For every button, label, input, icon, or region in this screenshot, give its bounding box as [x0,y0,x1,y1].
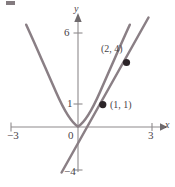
point-label-2-4: (2, 4) [101,44,123,54]
secant-line-curve [62,18,149,173]
y-tick-label-1: 1 [67,98,73,109]
data-point-2-4 [123,59,130,66]
y-tick-label-neg4: −4 [64,166,76,177]
y-axis-label: y [74,4,78,14]
x-tick-label-3: 3 [148,130,154,141]
x-tick-label-neg3: −3 [7,130,19,141]
x-tick-label-0: 0 [68,130,74,141]
x-axis-label: x [165,120,169,130]
y-axis-arrowhead [74,13,81,22]
plot-canvas [0,0,175,187]
data-point-1-1 [99,101,106,108]
point-label-1-1: (1, 1) [110,100,132,110]
y-tick-label-6: 6 [64,27,70,38]
graph-figure: −3 0 3 1 6 −4 x y (2, 4) (1, 1) [0,0,175,187]
